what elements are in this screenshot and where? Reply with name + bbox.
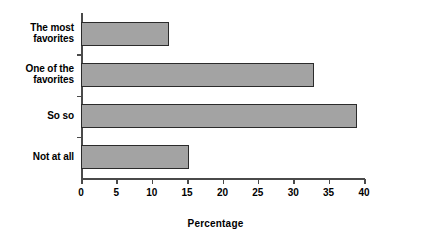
value-axis-tick-label: 25 <box>243 187 273 198</box>
value-axis-tick <box>81 179 83 184</box>
value-axis-tick <box>152 179 154 184</box>
value-axis-tick-label: 40 <box>349 187 379 198</box>
category-label: So so <box>0 110 74 121</box>
category-axis-tick <box>77 137 82 139</box>
value-axis-tick-label: 0 <box>66 187 96 198</box>
category-label: The most favorites <box>0 22 74 44</box>
category-axis-labels: The most favoritesOne of the favoritesSo… <box>0 0 74 245</box>
category-label: Not at all <box>0 151 74 162</box>
value-axis-tick <box>258 179 260 184</box>
value-axis-tick <box>223 179 225 184</box>
bar <box>81 63 314 87</box>
x-axis-title: Percentage <box>0 218 431 229</box>
bar <box>81 104 357 128</box>
value-axis-tick-label: 35 <box>314 187 344 198</box>
value-axis-tick-label: 5 <box>101 187 131 198</box>
category-label: One of the favorites <box>0 63 74 85</box>
value-axis-tick-label: 20 <box>208 187 238 198</box>
value-axis-tick-label: 10 <box>137 187 167 198</box>
value-axis-tick <box>116 179 118 184</box>
value-axis-tick <box>329 179 331 184</box>
category-axis-tick <box>77 96 82 98</box>
value-axis-tick <box>293 179 295 184</box>
value-axis-tick <box>364 179 366 184</box>
bar <box>81 22 169 46</box>
value-axis-tick <box>187 179 189 184</box>
bar-chart: The most favoritesOne of the favoritesSo… <box>0 0 431 245</box>
bar <box>81 145 189 169</box>
value-axis-tick-label: 15 <box>172 187 202 198</box>
value-axis-tick-label: 30 <box>278 187 308 198</box>
category-axis-tick <box>77 54 82 56</box>
